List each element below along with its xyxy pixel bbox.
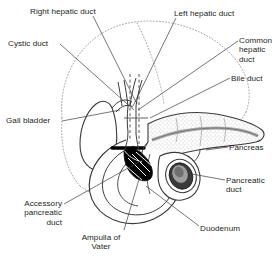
label-pancreas: Pancreas [229,143,264,152]
label-common-hepatic-duct: Common hepatic duct [239,36,272,64]
label-duodenum: Duodenum [200,224,240,233]
label-gall-bladder: Gall bladder [6,116,50,125]
label-cystic-duct: Cystic duct [8,39,48,48]
label-left-hepatic-duct: Left hepatic duct [174,9,234,18]
label-right-hepatic-duct: Right hepatic duct [30,7,96,16]
anatomy-figure: Right hepatic duct Left hepatic duct Cys… [0,0,278,260]
label-pancreatic-duct: Pancreatic duct [226,176,265,195]
duodenum-cut-end [158,152,202,200]
label-bile-duct: Bile duct [231,74,263,83]
label-ampulla-of-vater: Ampulla of Vater [62,233,140,252]
label-accessory-pancreatic-duct: Accessory pancreatic duct [4,199,62,227]
